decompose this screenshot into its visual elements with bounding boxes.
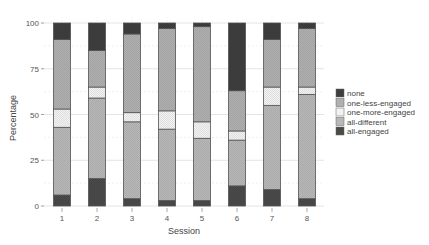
bar-segment-none [54, 23, 71, 39]
x-tick-label: 5 [200, 214, 205, 223]
stacked-bar-chart: 0255075100 12345678 Percentage Session n… [0, 0, 429, 245]
bar-segment-one-more-engaged [194, 122, 211, 138]
bar-session-5 [194, 23, 211, 206]
x-axis-title: Session [168, 226, 200, 236]
bar-session-6 [229, 23, 246, 206]
bar-segment-all-engaged [264, 190, 281, 206]
legend-item-none: none [336, 89, 365, 98]
bar-segment-all-engaged [194, 201, 211, 206]
x-tick-label: 7 [270, 214, 275, 223]
x-tick-label: 6 [235, 214, 240, 223]
bar-segment-all-different [299, 94, 316, 198]
y-tick-label: 50 [30, 111, 39, 120]
bar-segment-none [299, 23, 316, 28]
bar-session-7 [264, 23, 281, 206]
bar-segment-all-different [194, 138, 211, 200]
bar-segment-one-more-engaged [54, 109, 71, 127]
legend-label: one-more-engaged [347, 108, 415, 117]
legend-item-all-different: all-different [336, 118, 387, 127]
bar-segment-all-different [159, 129, 176, 200]
bar-segment-one-more-engaged [124, 113, 141, 122]
bar-segment-all-engaged [124, 199, 141, 206]
bar-session-2 [89, 23, 106, 206]
bar-segment-one-less-engaged [229, 91, 246, 131]
grid-lines [44, 17, 324, 212]
bar-segment-none [194, 23, 211, 27]
legend-label: one-less-engaged [347, 99, 411, 108]
legend-swatch [336, 108, 344, 116]
legend-label: all-different [347, 118, 387, 127]
y-tick-label: 0 [35, 202, 40, 211]
bar-segment-all-different [124, 122, 141, 199]
bar-segment-all-engaged [54, 195, 71, 206]
bar-segment-all-engaged [159, 201, 176, 206]
bar-segment-one-more-engaged [89, 87, 106, 98]
bar-segment-one-more-engaged [264, 87, 281, 105]
legend-swatch [336, 127, 344, 135]
bar-session-3 [124, 23, 141, 206]
legend-item-one-less-engaged: one-less-engaged [336, 99, 411, 108]
bar-segment-one-more-engaged [299, 87, 316, 94]
bar-session-8 [299, 23, 316, 206]
x-axis: 12345678 [60, 208, 310, 223]
y-tick-label: 25 [30, 156, 39, 165]
legend: noneone-less-engagedone-more-engagedall-… [336, 89, 415, 136]
x-tick-label: 8 [305, 214, 310, 223]
x-tick-label: 1 [60, 214, 65, 223]
bar-segment-all-engaged [89, 179, 106, 206]
y-tick-label: 100 [26, 19, 40, 28]
x-tick-label: 4 [165, 214, 170, 223]
bar-segment-all-different [89, 98, 106, 179]
bar-segment-one-less-engaged [54, 39, 71, 109]
bar-segment-none [159, 23, 176, 28]
legend-swatch [336, 89, 344, 97]
legend-label: all-engaged [347, 127, 389, 136]
bar-segment-one-less-engaged [124, 34, 141, 113]
y-axis-title: Percentage [8, 95, 18, 141]
legend-item-all-engaged: all-engaged [336, 127, 389, 136]
legend-swatch [336, 118, 344, 126]
bar-segment-one-less-engaged [194, 27, 211, 122]
bar-segment-none [229, 23, 246, 91]
bar-segment-none [89, 23, 106, 50]
bar-segment-one-less-engaged [89, 50, 106, 87]
legend-swatch [336, 99, 344, 107]
bar-segment-all-different [229, 140, 246, 186]
y-axis: 0255075100 [26, 19, 44, 211]
bar-segment-all-engaged [299, 199, 316, 206]
legend-item-one-more-engaged: one-more-engaged [336, 108, 415, 117]
bar-segment-none [264, 23, 281, 39]
bar-segment-one-less-engaged [299, 28, 316, 87]
bar-segment-one-more-engaged [159, 111, 176, 129]
bar-session-1 [54, 23, 71, 206]
legend-label: none [347, 89, 365, 98]
bar-segment-one-more-engaged [229, 131, 246, 140]
y-tick-label: 75 [30, 65, 39, 74]
bar-segment-all-engaged [229, 186, 246, 206]
bar-segment-none [124, 23, 141, 34]
bar-segment-all-different [264, 105, 281, 189]
bar-segment-all-different [54, 127, 71, 195]
bar-session-4 [159, 23, 176, 206]
x-tick-label: 3 [130, 214, 135, 223]
bar-segment-one-less-engaged [264, 39, 281, 87]
x-tick-label: 2 [95, 214, 100, 223]
bar-segment-one-less-engaged [159, 28, 176, 110]
